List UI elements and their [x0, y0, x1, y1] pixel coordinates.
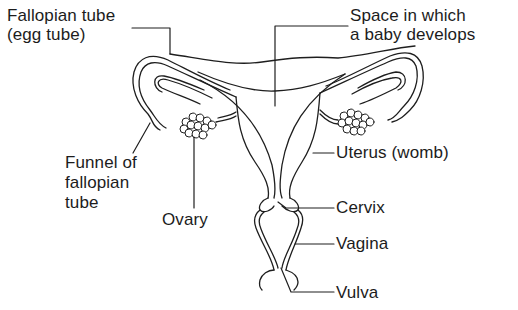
- label-fallopian-tube-line1: Fallopian tube: [7, 6, 115, 25]
- label-ovary: Ovary: [162, 210, 208, 229]
- leader-funnel: [133, 123, 150, 153]
- leader-space-baby: [275, 26, 348, 106]
- vagina-outline: [255, 210, 303, 290]
- left-ovary: [180, 112, 236, 139]
- label-funnel-line3: tube: [65, 193, 137, 213]
- label-cervix-text: Cervix: [336, 198, 385, 217]
- label-uterus-text: Uterus (womb): [336, 143, 449, 162]
- label-vagina-text: Vagina: [336, 234, 388, 253]
- leader-fallopian-tube: [132, 28, 170, 54]
- label-vulva-text: Vulva: [336, 283, 378, 302]
- label-vulva: Vulva: [336, 283, 378, 302]
- label-funnel: Funnel of fallopian tube: [65, 153, 137, 213]
- label-space-baby-line2: a baby develops: [350, 25, 475, 44]
- label-cervix: Cervix: [336, 198, 385, 217]
- label-fallopian-tube: Fallopian tube (egg tube): [7, 6, 115, 44]
- label-space-baby-line1: Space in which: [350, 6, 475, 25]
- label-funnel-line2: fallopian: [65, 173, 137, 193]
- leader-cervix: [278, 202, 334, 208]
- label-uterus: Uterus (womb): [336, 143, 449, 162]
- right-fallopian-tube: [320, 53, 423, 122]
- right-ovary: [320, 109, 374, 135]
- label-ovary-text: Ovary: [162, 210, 208, 229]
- label-space-baby: Space in which a baby develops: [350, 6, 475, 44]
- label-fallopian-tube-line2: (egg tube): [7, 25, 115, 44]
- label-funnel-line1: Funnel of: [65, 153, 137, 173]
- label-vagina: Vagina: [336, 234, 388, 253]
